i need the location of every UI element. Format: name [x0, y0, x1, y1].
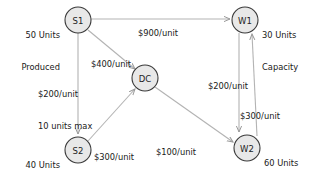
edge-label-s1-s2-cost: $200/unit	[38, 89, 92, 100]
edge-label-s1-dc: $400/unit	[91, 38, 131, 91]
node-s1[interactable]: S1	[65, 7, 91, 33]
edge-label-s1-w1-cost: $900/unit	[138, 28, 178, 39]
edge-label-dc-w2: $100/unit 80 units max	[156, 126, 210, 172]
annotation-w1: 30 Units Capacity	[262, 9, 322, 93]
node-s1-label: S1	[73, 16, 84, 26]
edge-label-w2-w1-cost: $300/unit	[240, 111, 280, 122]
network-flow-diagram: S1 S2 DC W1 W2 50 Units Produced 40 Unit…	[0, 0, 324, 172]
node-dc-label: DC	[139, 74, 152, 84]
edge-label-w2-w1: $300/unit	[240, 90, 280, 143]
edge-label-s2-dc-cost: $300/unit	[94, 152, 134, 163]
annotation-w1-line2: Capacity	[262, 62, 322, 73]
edge-label-s2-dc: $300/unit	[94, 131, 134, 172]
annotation-w1-line1: 30 Units	[262, 30, 322, 41]
node-dc[interactable]: DC	[132, 65, 158, 91]
node-w1[interactable]: W1	[232, 7, 258, 33]
node-w2-label: W2	[240, 144, 254, 154]
edge-label-s1-s2: $200/unit 10 units max	[38, 68, 92, 152]
annotation-s1-line1: 50 Units	[4, 30, 60, 41]
edge-label-dc-w2-cost: $100/unit	[156, 147, 210, 158]
node-w1-label: W1	[238, 16, 252, 26]
edge-label-s1-s2-limit: 10 units max	[38, 121, 92, 132]
annotation-s2-line1: 40 Units	[4, 160, 60, 171]
edge-label-s1-dc-cost: $400/unit	[91, 59, 131, 70]
annotation-w2-line1: 60 Units	[264, 158, 324, 169]
edge-label-s1-w1: $900/unit	[138, 7, 178, 60]
